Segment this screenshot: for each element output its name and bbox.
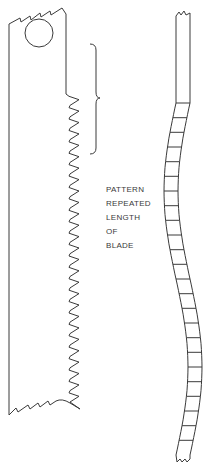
blade-front-view bbox=[9, 8, 80, 415]
diagram-canvas bbox=[0, 0, 206, 470]
brace-bracket bbox=[90, 44, 100, 154]
label-line: LENGTH bbox=[106, 211, 151, 225]
label-line: REPEATED bbox=[106, 197, 151, 211]
blade-side-view bbox=[164, 11, 202, 462]
label-line: BLADE bbox=[106, 239, 151, 253]
label-line: OF bbox=[106, 225, 151, 239]
side-view-bottom-teeth bbox=[176, 455, 190, 462]
side-view-top bbox=[176, 11, 190, 103]
label-line: PATTERN bbox=[106, 183, 151, 197]
blade-outline bbox=[9, 8, 80, 415]
mounting-hole bbox=[25, 19, 53, 47]
diagram: PATTERN REPEATED LENGTH OF BLADE bbox=[0, 0, 206, 470]
pattern-label: PATTERN REPEATED LENGTH OF BLADE bbox=[106, 183, 151, 253]
